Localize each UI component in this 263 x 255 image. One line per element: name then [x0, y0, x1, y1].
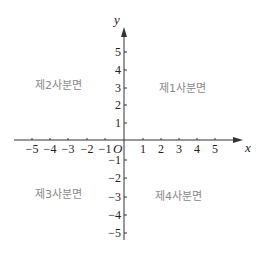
x-axis-label: x	[244, 140, 251, 155]
y-axis-label: y	[112, 12, 120, 27]
y-tick-label: 3	[115, 81, 121, 95]
x-tick-label: 4	[194, 142, 200, 156]
x-tick-label: −4	[44, 142, 57, 156]
y-tick-label: −2	[108, 171, 121, 185]
quadrant-2-label: 제2사분면	[35, 79, 82, 92]
y-tick-label: −5	[108, 226, 121, 240]
quadrant-3-label: 제3사분면	[35, 188, 82, 201]
quadrant-1-label: 제1사분면	[159, 82, 206, 95]
y-tick-label: 4	[115, 63, 121, 77]
x-axis-arrow-icon	[233, 137, 243, 143]
x-tick-label: 3	[176, 142, 182, 156]
origin-label: O	[113, 141, 123, 156]
x-tick-label: −3	[62, 142, 75, 156]
x-tick-label: 5	[212, 142, 218, 156]
y-tick-label: 2	[115, 98, 121, 112]
y-tick-label: −4	[108, 208, 121, 222]
y-tick-label: 5	[115, 45, 121, 59]
x-tick-label: −5	[26, 142, 39, 156]
y-tick-label: 1	[115, 116, 121, 130]
x-tick-label: −2	[81, 142, 94, 156]
x-tick-label: 2	[158, 142, 164, 156]
x-tick-label: 1	[140, 142, 146, 156]
y-tick-label: −3	[108, 190, 121, 204]
coordinate-plane: −5−4−3−2−112345 54321−1−2−3−4−5 x y O 제2…	[0, 0, 263, 255]
y-axis-arrow-icon	[121, 27, 127, 37]
quadrant-4-label: 제4사분면	[155, 190, 202, 203]
